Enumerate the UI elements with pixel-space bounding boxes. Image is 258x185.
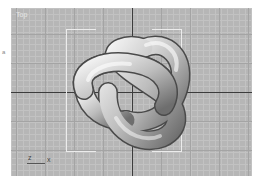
viewport-label[interactable]: Top xyxy=(16,11,27,18)
top-viewport[interactable]: Top xyxy=(11,8,252,176)
gizmo-z-label: z xyxy=(28,154,32,161)
side-mark: a xyxy=(2,49,5,55)
torus-knot-object[interactable] xyxy=(66,28,196,163)
axis-gizmo: z x xyxy=(25,153,55,167)
gizmo-x-label: x xyxy=(47,156,51,163)
gizmo-axis-line xyxy=(27,163,45,164)
